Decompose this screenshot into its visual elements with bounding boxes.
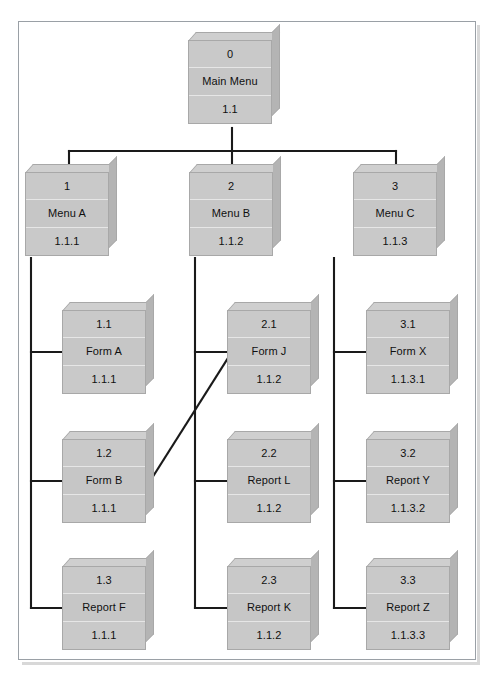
page-frame-shadow-bottom [22,662,480,665]
node-code: 1.1.1 [26,228,108,255]
node-side-face [146,550,154,642]
node-code: 1.1.3.1 [367,366,449,393]
node-front-face: 2.3 Report K 1.1.2 [227,566,311,650]
node-code: 1.1.2 [228,366,310,393]
node-side-face [437,156,445,248]
node-side-face [311,550,319,642]
node-report-z[interactable]: 3.3 Report Z 1.1.3.3 [366,558,458,650]
node-front-face: 2.2 Report L 1.1.2 [227,439,311,523]
node-front-face: 3 Menu C 1.1.3 [353,172,437,256]
node-number: 3.2 [367,440,449,467]
node-front-face: 3.1 Form X 1.1.3.1 [366,310,450,394]
node-side-face [146,423,154,515]
node-report-k[interactable]: 2.3 Report K 1.1.2 [227,558,319,650]
node-number: 3.1 [367,311,449,338]
node-side-face [109,156,117,248]
node-number: 2 [190,173,272,200]
node-number: 1 [26,173,108,200]
node-form-j[interactable]: 2.1 Form J 1.1.2 [227,302,319,394]
node-number: 1.1 [63,311,145,338]
page-frame-shadow-right [477,25,480,663]
node-label: Menu C [354,200,436,227]
node-label: Form B [63,467,145,494]
node-side-face [450,550,458,642]
node-label: Report Z [367,594,449,621]
node-form-b[interactable]: 1.2 Form B 1.1.1 [62,431,154,523]
node-label: Report Y [367,467,449,494]
node-side-face [450,423,458,515]
node-label: Main Menu [189,68,271,95]
node-number: 0 [189,41,271,68]
node-number: 1.3 [63,567,145,594]
node-front-face: 2 Menu B 1.1.2 [189,172,273,256]
node-code: 1.1 [189,96,271,123]
node-label: Report L [228,467,310,494]
node-label: Form J [228,338,310,365]
node-side-face [311,423,319,515]
node-code: 1.1.1 [63,622,145,649]
node-number: 1.2 [63,440,145,467]
node-number: 3.3 [367,567,449,594]
node-front-face: 2.1 Form J 1.1.2 [227,310,311,394]
node-front-face: 0 Main Menu 1.1 [188,40,272,124]
node-label: Form A [63,338,145,365]
node-report-f[interactable]: 1.3 Report F 1.1.1 [62,558,154,650]
node-menu-c[interactable]: 3 Menu C 1.1.3 [353,164,445,256]
node-code: 1.1.2 [228,622,310,649]
node-label: Report F [63,594,145,621]
node-front-face: 1.2 Form B 1.1.1 [62,439,146,523]
node-code: 1.1.2 [190,228,272,255]
node-root[interactable]: 0 Main Menu 1.1 [188,32,280,124]
node-side-face [311,294,319,386]
diagram-canvas: 0 Main Menu 1.1 1 Menu A 1.1.1 2 Menu B … [0,0,499,684]
node-label: Menu B [190,200,272,227]
node-menu-a[interactable]: 1 Menu A 1.1.1 [25,164,117,256]
node-code: 1.1.3.3 [367,622,449,649]
node-menu-b[interactable]: 2 Menu B 1.1.2 [189,164,281,256]
node-number: 2.2 [228,440,310,467]
node-number: 3 [354,173,436,200]
node-code: 1.1.1 [63,366,145,393]
node-form-x[interactable]: 3.1 Form X 1.1.3.1 [366,302,458,394]
node-side-face [272,24,280,116]
node-report-l[interactable]: 2.2 Report L 1.1.2 [227,431,319,523]
node-front-face: 3.2 Report Y 1.1.3.2 [366,439,450,523]
node-front-face: 1.1 Form A 1.1.1 [62,310,146,394]
node-label: Report K [228,594,310,621]
node-report-y[interactable]: 3.2 Report Y 1.1.3.2 [366,431,458,523]
node-front-face: 1.3 Report F 1.1.1 [62,566,146,650]
node-code: 1.1.3 [354,228,436,255]
node-code: 1.1.2 [228,495,310,522]
node-label: Form X [367,338,449,365]
node-front-face: 1 Menu A 1.1.1 [25,172,109,256]
node-number: 2.1 [228,311,310,338]
node-front-face: 3.3 Report Z 1.1.3.3 [366,566,450,650]
node-side-face [273,156,281,248]
node-code: 1.1.1 [63,495,145,522]
node-side-face [450,294,458,386]
node-form-a[interactable]: 1.1 Form A 1.1.1 [62,302,154,394]
node-label: Menu A [26,200,108,227]
node-number: 2.3 [228,567,310,594]
node-code: 1.1.3.2 [367,495,449,522]
node-side-face [146,294,154,386]
